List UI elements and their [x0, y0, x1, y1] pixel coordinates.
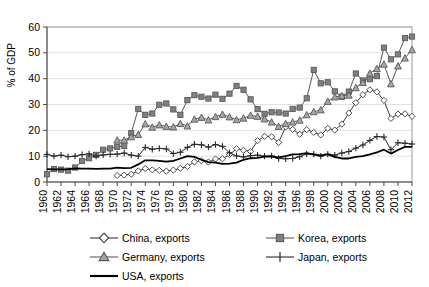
data-point	[170, 167, 176, 173]
exports-gdp-line-chart: % of GDP 0102030405060 19601962196419661…	[0, 0, 429, 287]
data-point	[198, 142, 204, 148]
data-point	[192, 93, 197, 98]
data-point	[206, 96, 211, 101]
data-point	[142, 165, 148, 171]
data-point	[51, 153, 57, 159]
data-point	[164, 101, 169, 106]
data-point	[346, 110, 352, 116]
plus-icon	[265, 250, 295, 264]
data-point	[374, 133, 380, 139]
y-tick-label: 0	[34, 176, 40, 188]
data-point	[149, 146, 155, 152]
legend-item-korea[interactable]: Korea, exports	[265, 228, 367, 247]
data-point	[297, 105, 302, 110]
data-point	[261, 133, 267, 139]
data-point	[276, 110, 281, 115]
x-tick-label: 1988	[234, 190, 246, 214]
data-point	[142, 120, 149, 126]
legend-label-usa: USA, exports	[119, 270, 184, 282]
legend-label-korea: Korea, exports	[295, 232, 366, 244]
y-tick-label: 60	[28, 21, 40, 33]
x-axis: 1960196219641966196819701972197419761978…	[37, 182, 414, 213]
data-point	[381, 45, 386, 50]
legend-label-china: China, exports	[119, 232, 190, 244]
x-tick-label: 1978	[163, 190, 175, 214]
data-point	[143, 112, 148, 117]
data-point	[241, 87, 246, 92]
legend-column-right: Korea, exports Japan, exports	[265, 228, 367, 266]
data-point	[269, 110, 274, 115]
legend-item-china[interactable]: China, exports	[89, 228, 205, 247]
data-point	[136, 106, 141, 111]
x-tick-label: 2010	[388, 190, 400, 214]
data-point	[227, 91, 232, 96]
filled-square-icon	[265, 231, 295, 245]
x-tick-label: 2008	[374, 190, 386, 214]
data-point	[212, 156, 218, 162]
legend-label-japan: Japan, exports	[295, 251, 367, 263]
data-point	[128, 152, 134, 158]
data-point	[156, 122, 163, 128]
data-point	[58, 152, 64, 158]
x-tick-label: 1968	[93, 190, 105, 214]
data-point	[297, 131, 303, 137]
legend-item-japan[interactable]: Japan, exports	[265, 247, 367, 266]
series-germany	[114, 46, 416, 143]
data-point	[248, 97, 253, 102]
data-series-group	[44, 34, 416, 179]
data-point	[346, 148, 352, 154]
data-point	[402, 140, 408, 146]
data-point	[65, 153, 71, 159]
data-point	[184, 163, 190, 169]
data-point	[205, 117, 212, 123]
x-tick-label: 2012	[402, 190, 414, 214]
x-tick-label: 1976	[149, 190, 161, 214]
data-point	[122, 143, 127, 148]
data-point	[212, 141, 218, 147]
x-tick-label: 1974	[135, 190, 147, 214]
data-point	[381, 134, 387, 140]
data-point	[283, 111, 288, 116]
data-point	[290, 126, 296, 132]
data-point	[275, 123, 282, 129]
y-tick-label: 20	[28, 124, 40, 136]
data-point	[367, 77, 372, 82]
data-point	[240, 147, 246, 153]
data-point	[226, 114, 233, 120]
data-point	[72, 153, 78, 159]
data-point	[304, 96, 309, 101]
data-point	[268, 119, 275, 125]
data-point	[339, 150, 345, 156]
data-point	[108, 146, 113, 151]
data-point	[44, 172, 49, 177]
x-tick-label: 1962	[51, 190, 63, 214]
data-point	[352, 84, 359, 90]
data-point	[360, 142, 366, 148]
x-tick-label: 1990	[248, 190, 260, 214]
data-point	[395, 52, 400, 57]
data-point	[353, 71, 358, 76]
filled-triangle-icon	[89, 250, 119, 264]
legend-item-germany[interactable]: Germany, exports	[89, 247, 205, 266]
data-point	[233, 153, 239, 159]
x-tick-label: 1972	[121, 190, 133, 214]
data-point	[177, 165, 183, 171]
data-point	[184, 144, 190, 150]
x-tick-label: 1996	[290, 190, 302, 214]
data-point	[311, 67, 316, 72]
y-tick-label: 50	[28, 46, 40, 58]
data-point	[156, 167, 162, 173]
data-point	[150, 111, 155, 116]
data-point	[303, 111, 310, 117]
legend-item-usa[interactable]: USA, exports	[89, 266, 205, 285]
x-tick-label: 2002	[332, 190, 344, 214]
data-point	[381, 61, 388, 67]
open-diamond-icon	[89, 231, 119, 245]
x-tick-label: 2000	[318, 190, 330, 214]
data-point	[128, 171, 134, 177]
data-point	[219, 111, 226, 117]
data-point	[115, 144, 120, 149]
data-point	[114, 172, 120, 178]
data-point	[185, 98, 190, 103]
legend-column-left: China, exports Germany, exports USA, exp…	[89, 228, 205, 285]
